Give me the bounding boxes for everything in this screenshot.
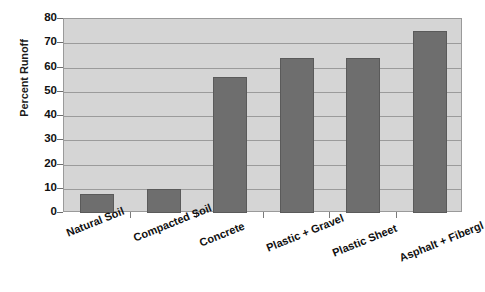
bar	[147, 189, 181, 213]
gridline	[64, 92, 461, 93]
gridline	[64, 43, 461, 44]
y-tick-mark	[57, 18, 63, 19]
gridline	[64, 116, 461, 117]
y-tick-mark	[57, 42, 63, 43]
y-tick-label: 0	[17, 206, 57, 218]
x-tick-mark	[130, 212, 131, 218]
x-tick-mark	[263, 212, 264, 218]
bar	[413, 31, 447, 213]
x-axis-label: Concrete	[198, 221, 246, 249]
y-tick-label: 40	[17, 109, 57, 121]
y-tick-label: 50	[17, 85, 57, 97]
y-tick-mark	[57, 115, 63, 116]
y-tick-mark	[57, 91, 63, 92]
y-tick-label: 60	[17, 61, 57, 73]
gridline	[64, 140, 461, 141]
y-tick-label: 70	[17, 36, 57, 48]
plot-area	[63, 18, 462, 212]
y-tick-label: 10	[17, 182, 57, 194]
gridline	[64, 68, 461, 69]
x-axis-label: Asphalt + Fibergl	[397, 220, 484, 264]
bar	[213, 77, 247, 213]
x-tick-mark	[396, 212, 397, 218]
y-tick-mark	[57, 188, 63, 189]
x-axis-label: Plastic Sheet	[331, 223, 399, 259]
y-tick-label: 20	[17, 158, 57, 170]
y-tick-mark	[57, 139, 63, 140]
bar	[346, 58, 380, 213]
y-tick-label: 80	[17, 12, 57, 24]
y-tick-label: 30	[17, 133, 57, 145]
gridline	[64, 165, 461, 166]
y-tick-mark	[57, 67, 63, 68]
bar	[280, 58, 314, 213]
y-tick-mark	[57, 212, 63, 213]
gridline	[64, 189, 461, 190]
y-axis-title: Percent Runoff	[18, 8, 30, 148]
y-tick-mark	[57, 164, 63, 165]
